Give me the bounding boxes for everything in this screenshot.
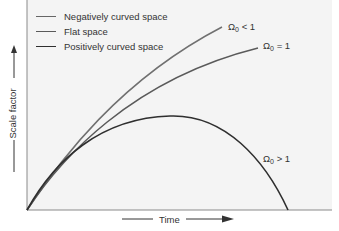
legend-label: Flat space [64, 26, 108, 37]
y-axis-arrowhead-icon [11, 45, 17, 53]
curve-flat [27, 48, 258, 210]
curve-positively-curved [27, 116, 288, 210]
curve-label-omega-less-than-one: Ω0 < 1 [228, 21, 255, 33]
legend-swatch-flat [36, 31, 56, 32]
legend: Negatively curved space Flat space Posit… [36, 9, 168, 54]
omega-subscript: 0 [270, 158, 274, 165]
curve-label-omega-greater-than-one: Ω0 > 1 [263, 153, 290, 165]
omega-relation: = 1 [277, 40, 290, 51]
legend-swatch-positive [36, 46, 56, 47]
cosmology-scale-factor-figure: Negatively curved space Flat space Posit… [0, 0, 339, 231]
omega-subscript: 0 [270, 45, 274, 52]
legend-swatch-negative [36, 16, 56, 17]
omega-relation: < 1 [242, 21, 255, 32]
legend-label: Negatively curved space [64, 11, 168, 22]
legend-item-negatively-curved: Negatively curved space [36, 9, 168, 24]
y-axis-label: Scale factor [7, 69, 18, 159]
legend-item-positively-curved: Positively curved space [36, 39, 168, 54]
curve-label-omega-equals-one: Ω0 = 1 [263, 40, 290, 52]
omega-relation: > 1 [277, 153, 290, 164]
x-axis-label: Time [155, 214, 184, 225]
x-axis-arrowhead-icon [222, 216, 234, 223]
legend-label: Positively curved space [64, 41, 163, 52]
legend-item-flat: Flat space [36, 24, 168, 39]
omega-subscript: 0 [235, 26, 239, 33]
